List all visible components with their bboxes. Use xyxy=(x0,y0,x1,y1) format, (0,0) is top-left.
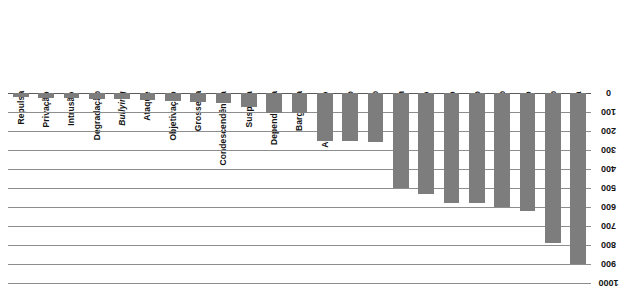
y-axis-tick-labels: 01002003004005006007008009001000 xyxy=(594,93,623,283)
bar xyxy=(368,93,384,142)
gridline-1000 xyxy=(8,283,591,284)
label-slot: Suspeita xyxy=(236,0,261,93)
label-slot: Indiferença xyxy=(566,0,591,93)
bar xyxy=(520,93,536,211)
y-tick-label-600: 600 xyxy=(594,201,623,213)
y-tick-label-500: 500 xyxy=(594,182,623,194)
label-slot: Degradação xyxy=(84,0,109,93)
bar-slot xyxy=(439,93,464,283)
bar-slot xyxy=(211,93,236,283)
bar xyxy=(444,93,460,203)
bar xyxy=(38,93,54,98)
label-slot: Dependência xyxy=(261,0,286,93)
bar-slot xyxy=(160,93,185,283)
bar-slot xyxy=(566,93,591,283)
bar-slot xyxy=(337,93,362,283)
bar xyxy=(545,93,561,243)
label-slot: Ataque xyxy=(135,0,160,93)
bar-slot xyxy=(185,93,210,283)
bar xyxy=(418,93,434,194)
bar-slot xyxy=(490,93,515,283)
bar xyxy=(494,93,510,207)
y-tick-label-100: 100 xyxy=(594,106,623,118)
bar xyxy=(114,93,130,99)
bar-slot xyxy=(464,93,489,283)
label-slot: Exclusão xyxy=(439,0,464,93)
bar-slot xyxy=(515,93,540,283)
y-tick-label-1000: 1000 xyxy=(594,277,623,289)
y-tick-label-300: 300 xyxy=(594,144,623,156)
bar xyxy=(89,93,105,99)
bar-slot xyxy=(363,93,388,283)
bar xyxy=(216,93,232,103)
label-slot: Desprezo xyxy=(464,0,489,93)
bar xyxy=(342,93,358,141)
bar-slot xyxy=(388,93,413,283)
bar xyxy=(469,93,485,203)
label-slot: Discriminação xyxy=(414,0,439,93)
label-slot: Rotulagem xyxy=(388,0,413,93)
bar-slot xyxy=(135,93,160,283)
bar-slot xyxy=(261,93,286,283)
bar-slot xyxy=(33,93,58,283)
bar-slot xyxy=(109,93,134,283)
bar xyxy=(13,93,29,97)
label-slot: Condescendência xyxy=(211,0,236,93)
bar-series xyxy=(8,93,591,283)
bar xyxy=(140,93,156,100)
y-tick-label-700: 700 xyxy=(594,220,623,232)
label-slot: Objetivação xyxy=(160,0,185,93)
label-slot: Difamação xyxy=(337,0,362,93)
bar xyxy=(241,93,257,107)
bar xyxy=(165,93,181,101)
bar xyxy=(317,93,333,141)
bar-slot xyxy=(236,93,261,283)
plot-area xyxy=(8,93,591,283)
label-slot: Privação xyxy=(33,0,58,93)
y-tick-label-0: 0 xyxy=(594,87,623,99)
label-slot: Restrição xyxy=(490,0,515,93)
bar-slot xyxy=(59,93,84,283)
category-label-row: RepulsaPrivaçãoIntrusãoDegradaçãoBullyin… xyxy=(8,0,591,93)
label-slot: Intrusão xyxy=(59,0,84,93)
label-slot: Grosseria xyxy=(185,0,210,93)
label-slot: Bullying xyxy=(109,0,134,93)
bar xyxy=(393,93,409,188)
bar xyxy=(292,93,308,113)
label-slot: Agrupamento xyxy=(312,0,337,93)
bar-slot xyxy=(287,93,312,283)
label-slot: Barganha xyxy=(287,0,312,93)
bar-slot xyxy=(540,93,565,283)
bar xyxy=(570,93,586,264)
bar-slot xyxy=(8,93,33,283)
label-slot: Dominuído xyxy=(515,0,540,93)
bar-slot xyxy=(414,93,439,283)
y-tick-label-900: 900 xyxy=(594,258,623,270)
label-slot: Exploração xyxy=(363,0,388,93)
label-slot: Repulsa xyxy=(8,0,33,93)
bar-slot xyxy=(84,93,109,283)
bar xyxy=(266,93,282,113)
y-tick-label-200: 200 xyxy=(594,125,623,137)
bar xyxy=(190,93,206,102)
bar-chart: RepulsaPrivaçãoIntrusãoDegradaçãoBullyin… xyxy=(0,0,623,295)
bar xyxy=(64,93,80,98)
y-tick-label-800: 800 xyxy=(594,239,623,251)
label-slot: Rejeição xyxy=(540,0,565,93)
bar-slot xyxy=(312,93,337,283)
y-tick-label-400: 400 xyxy=(594,163,623,175)
